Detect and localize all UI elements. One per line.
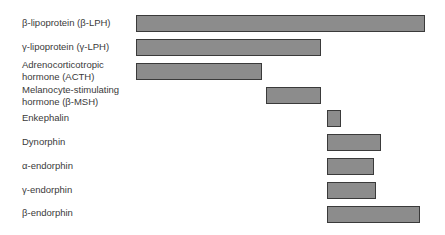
- bar-alpha-endorphin: [327, 158, 374, 175]
- row-label-alpha-endorphin: α-endorphin: [22, 160, 73, 172]
- bar-enkephalin: [327, 110, 341, 127]
- bar-beta-lph: [136, 15, 425, 32]
- bar-dynorphin: [327, 134, 381, 151]
- row-label-acth-line1: Adrenocorticotropic: [22, 59, 104, 71]
- row-label-dynorphin: Dynorphin: [22, 136, 65, 148]
- row-label-beta-msh-line1: Melanocyte-stimulating: [22, 84, 119, 96]
- bar-gamma-lph: [136, 39, 321, 56]
- bar-beta-msh: [266, 87, 321, 104]
- row-label-beta-msh-line2: hormone (β-MSH): [22, 96, 119, 108]
- row-label-gamma-lph: γ-lipoprotein (γ-LPH): [22, 41, 109, 53]
- row-label-acth-line2: hormone (ACTH): [22, 71, 104, 83]
- row-label-beta-endorphin: β-endorphin: [22, 207, 73, 219]
- bar-beta-endorphin: [327, 206, 420, 223]
- row-label-gamma-endorphin: γ-endorphin: [22, 184, 72, 196]
- bar-gamma-endorphin: [327, 182, 376, 199]
- row-label-beta-lph: β-lipoprotein (β-LPH): [22, 17, 111, 29]
- row-label-beta-msh: Melanocyte-stimulating hormone (β-MSH): [22, 84, 119, 108]
- row-label-acth: Adrenocorticotropic hormone (ACTH): [22, 59, 104, 83]
- bar-acth: [136, 63, 262, 80]
- row-label-enkephalin: Enkephalin: [22, 112, 69, 124]
